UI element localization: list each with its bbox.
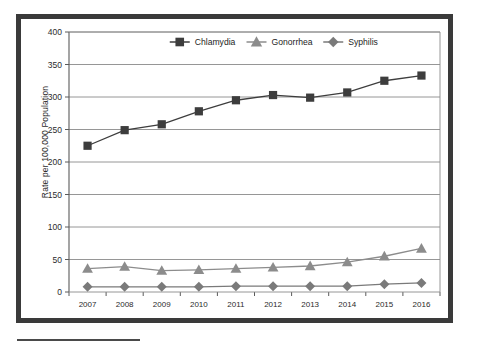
svg-text:2011: 2011 xyxy=(227,300,245,309)
svg-text:2010: 2010 xyxy=(190,300,208,309)
svg-text:2016: 2016 xyxy=(413,300,431,309)
bottom-rule xyxy=(17,339,140,341)
y-axis-ticks: 050100150200250300350400 xyxy=(48,27,69,297)
svg-text:150: 150 xyxy=(48,190,62,200)
svg-text:Chlamydia: Chlamydia xyxy=(195,37,236,47)
svg-text:2009: 2009 xyxy=(153,300,171,309)
svg-text:50: 50 xyxy=(53,255,63,265)
svg-text:200: 200 xyxy=(48,157,62,167)
svg-text:250: 250 xyxy=(48,125,62,135)
svg-text:350: 350 xyxy=(48,60,62,70)
chart-legend: ChlamydiaGonorrheaSyphilis xyxy=(170,36,378,47)
line-chart: 050100150200250300350400 200720082009201… xyxy=(21,19,448,318)
svg-text:100: 100 xyxy=(48,222,62,232)
plot-area: 050100150200250300350400 200720082009201… xyxy=(21,19,448,318)
svg-text:2012: 2012 xyxy=(264,300,282,309)
svg-text:2015: 2015 xyxy=(375,300,393,309)
svg-text:2014: 2014 xyxy=(338,300,356,309)
svg-text:400: 400 xyxy=(48,27,62,37)
chart-frame: Rate per 100,000 Population 050100150200… xyxy=(16,14,453,323)
svg-text:0: 0 xyxy=(57,287,62,297)
gridlines xyxy=(69,32,440,260)
svg-text:Syphilis: Syphilis xyxy=(348,37,378,47)
svg-text:2007: 2007 xyxy=(79,300,97,309)
data-series-layer xyxy=(82,71,427,291)
svg-text:2013: 2013 xyxy=(301,300,319,309)
chart-inner: Rate per 100,000 Population 050100150200… xyxy=(21,19,448,318)
x-axis-ticks: 2007200820092010201120122013201420152016 xyxy=(69,292,440,309)
svg-text:300: 300 xyxy=(48,92,62,102)
svg-text:Gonorrhea: Gonorrhea xyxy=(272,37,313,47)
svg-text:2008: 2008 xyxy=(116,300,134,309)
